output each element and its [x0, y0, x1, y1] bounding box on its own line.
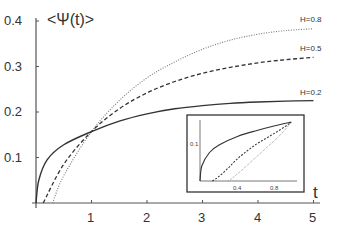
- inset-frame: [187, 115, 304, 192]
- plot-svg: [0, 0, 338, 234]
- inset-x-tick-label: 0.4: [233, 185, 241, 191]
- y-tick-label: 0.1: [4, 150, 22, 165]
- inset-x-tick-label: 0.8: [270, 185, 278, 191]
- curve-label-h02: H=0.2: [300, 88, 322, 97]
- y-tick-label: 0.2: [4, 104, 22, 119]
- x-tick-label: 1: [87, 210, 94, 225]
- x-tick-label: 4: [254, 210, 261, 225]
- y-tick-label: 0.3: [4, 59, 22, 74]
- chart-area: 0.4 0.3 0.2 0.1 <Ψ(t)> 1 2 3 4 5 t H=0.8…: [0, 0, 338, 234]
- x-tick-label: 3: [198, 210, 205, 225]
- y-axis-label: <Ψ(t)>: [47, 11, 94, 29]
- x-axis-label: t: [313, 183, 318, 203]
- curve-label-h08: H=0.8: [300, 15, 322, 24]
- x-tick-label: 2: [143, 210, 150, 225]
- x-tick-label: 5: [309, 210, 316, 225]
- curve-label-h05: H=0.5: [300, 44, 322, 53]
- inset-y-tick-label: 0.1: [190, 141, 198, 147]
- y-tick-label: 0.4: [4, 13, 22, 28]
